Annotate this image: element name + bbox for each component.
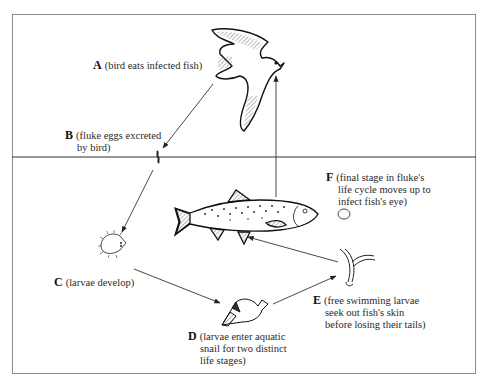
snail-icon (222, 299, 268, 326)
stage-description: (larvae develop) (66, 277, 135, 288)
stage-description: (free swimming larvae (324, 295, 419, 306)
label-stage-b: B(fluke eggs excreted by bird) (65, 129, 161, 154)
arrow-e-to-fish (248, 237, 338, 262)
stage-description-line2: life cycle moves up to (326, 184, 431, 196)
label-stage-c: C(larvae develop) (54, 276, 134, 289)
label-stage-a: A(bird eats infected fish) (93, 59, 202, 72)
label-stage-d: D(larvae enter aquatic snail for two dis… (188, 330, 287, 367)
stage-description-line3: infect fish's eye) (326, 196, 431, 208)
label-stage-f: F(final stage in fluke's life cycle move… (326, 171, 431, 208)
cercaria-icon (340, 249, 375, 286)
stage-description-line2: snail for two distinct (188, 343, 287, 355)
stage-letter: D (188, 329, 197, 343)
stage-description-line3: life stages) (188, 355, 287, 367)
larva-icon (98, 230, 126, 258)
stage-letter: B (65, 128, 73, 142)
stage-description: (larvae enter aquatic (200, 331, 286, 342)
stage-letter: E (313, 293, 321, 307)
arrow-a-to-b (163, 84, 213, 148)
stage-letter: A (93, 58, 102, 72)
fish-icon (175, 190, 318, 244)
stage-description: (final stage in fluke's (336, 172, 424, 183)
stage-letter: C (54, 275, 63, 289)
stage-letter: F (326, 170, 333, 184)
cyst-icon (338, 209, 350, 219)
stage-description: (fluke eggs excreted (76, 130, 161, 141)
bird-icon (212, 29, 284, 131)
arrow-c-to-d (134, 269, 220, 303)
stage-description: (bird eats infected fish) (105, 60, 203, 71)
stage-description-line2: by bird) (65, 142, 161, 154)
stage-description-line2: seek out fish's skin (313, 307, 426, 319)
stage-description-line3: before losing their tails) (313, 319, 426, 331)
arrow-b-to-c (122, 170, 153, 232)
label-stage-e: E(free swimming larvae seek out fish's s… (313, 294, 426, 331)
